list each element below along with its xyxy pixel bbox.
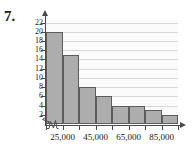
histogram-bar (96, 96, 113, 124)
y-axis-tick-mark (41, 41, 46, 42)
x-axis-tick-mark (145, 126, 146, 130)
x-axis-arrow-icon (180, 122, 186, 128)
y-axis-tick-mark (41, 32, 46, 33)
histogram-bar (46, 32, 63, 124)
y-axis-tick-mark (41, 23, 46, 24)
x-axis-tick-mark (129, 126, 130, 130)
y-axis-tick-mark (41, 50, 46, 51)
histogram-bar (145, 110, 162, 124)
x-axis-tick-mark (79, 126, 80, 130)
x-axis-break-icon (46, 119, 59, 129)
histogram-figure: 7. 222018161412108642 25,00045,00065,000… (0, 0, 194, 155)
plot-area (46, 18, 178, 124)
histogram-bar (129, 106, 146, 124)
histogram-bar (79, 87, 96, 124)
x-axis-tick-mark (178, 126, 179, 130)
gridline (46, 23, 178, 24)
x-axis-tick-label: 85,000 (142, 132, 182, 142)
x-axis-tick-mark (162, 126, 163, 130)
y-axis-arrow-icon (42, 10, 48, 16)
histogram-bar (162, 115, 179, 124)
y-axis-tick-mark (41, 87, 46, 88)
x-axis-tick-mark (96, 126, 97, 130)
y-axis-tick-mark (41, 69, 46, 70)
y-axis-tick-mark (41, 59, 46, 60)
gridline (46, 41, 178, 42)
histogram-bar (63, 55, 80, 124)
y-axis-tick-mark (41, 96, 46, 97)
gridline (46, 50, 178, 51)
histogram-bar (112, 106, 129, 124)
x-axis-tick-mark (63, 126, 64, 130)
x-axis-tick-mark (112, 126, 113, 130)
y-axis-tick-mark (41, 106, 46, 107)
y-axis-tick-mark (41, 78, 46, 79)
gridline (46, 32, 178, 33)
y-axis-line (45, 14, 46, 126)
problem-number: 7. (4, 8, 15, 25)
